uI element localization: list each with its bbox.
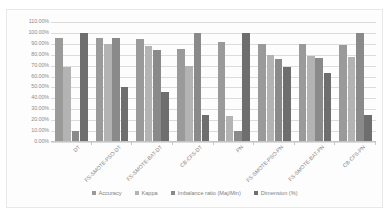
bar-group bbox=[173, 22, 214, 142]
bar-group bbox=[254, 22, 295, 142]
x-axis-baseline bbox=[51, 141, 376, 142]
y-axis-tick-label: 80.00% bbox=[9, 52, 49, 57]
bar-kappa bbox=[104, 44, 112, 142]
bar-kappa bbox=[226, 116, 234, 142]
legend-swatch-icon bbox=[254, 191, 259, 196]
bars-layer bbox=[51, 22, 376, 142]
x-axis: DTFS-SMOTE-PSO-DTFS-SMOTE-BAT-DTCB-CFS-D… bbox=[51, 144, 376, 188]
bar-imbalance-ratio-maj-min bbox=[315, 58, 323, 142]
bar-kappa bbox=[145, 46, 153, 142]
bar-accuracy bbox=[136, 39, 144, 142]
bar-dimension bbox=[324, 73, 332, 142]
bar-kappa bbox=[267, 55, 275, 142]
bar-group bbox=[214, 22, 255, 142]
y-axis-tick-label: 10.00% bbox=[9, 128, 49, 133]
y-axis-tick-label: 20.00% bbox=[9, 117, 49, 122]
legend-swatch-icon bbox=[135, 191, 140, 196]
bar-accuracy bbox=[96, 38, 104, 142]
bar-accuracy bbox=[258, 44, 266, 142]
bar-accuracy bbox=[177, 49, 185, 142]
legend-item-label: Dimension (%) bbox=[261, 190, 298, 196]
bar-dimension bbox=[283, 67, 291, 142]
legend-swatch-icon bbox=[92, 191, 97, 196]
bar-group bbox=[51, 22, 92, 142]
legend-item[interactable]: Dimension (%) bbox=[254, 190, 298, 196]
bar-accuracy bbox=[299, 44, 307, 142]
bar-dimension bbox=[242, 33, 250, 142]
legend-item[interactable]: Accuracy bbox=[92, 190, 122, 196]
x-axis-tick-label: CB-CFS-DT bbox=[179, 144, 203, 168]
bar-group bbox=[335, 22, 376, 142]
legend-swatch-icon bbox=[171, 191, 176, 196]
y-axis-tick-label: 100.00% bbox=[9, 30, 49, 35]
y-axis-tick-label: 0.00% bbox=[9, 139, 49, 144]
y-axis-tick-label: 110.00% bbox=[9, 19, 49, 24]
x-axis-tick-label: FS-SMOTE-PSO-DT bbox=[83, 144, 122, 183]
y-axis: 110.00%100.00%90.00%80.00%70.00%60.00%50… bbox=[9, 22, 49, 142]
bar-imbalance-ratio-maj-min bbox=[356, 33, 364, 142]
bar-group bbox=[295, 22, 336, 142]
bar-group bbox=[132, 22, 173, 142]
x-axis-tick-label: CB-CFS-PN bbox=[341, 144, 366, 169]
legend-item-label: Kappa bbox=[142, 190, 158, 196]
bar-dimension bbox=[364, 115, 372, 142]
y-axis-tick-label: 70.00% bbox=[9, 63, 49, 68]
bar-group bbox=[92, 22, 133, 142]
bar-kappa bbox=[63, 67, 71, 142]
bar-dimension bbox=[121, 87, 129, 142]
bar-imbalance-ratio-maj-min bbox=[153, 50, 161, 142]
bar-imbalance-ratio-maj-min bbox=[112, 38, 120, 142]
x-axis-tick-label: PN bbox=[235, 144, 244, 153]
bar-accuracy bbox=[55, 38, 63, 142]
y-axis-tick-label: 40.00% bbox=[9, 96, 49, 101]
bar-chart-figure: 110.00%100.00%90.00%80.00%70.00%60.00%50… bbox=[6, 9, 383, 208]
bar-imbalance-ratio-maj-min bbox=[194, 33, 202, 142]
x-axis-tick-label: DT bbox=[72, 144, 81, 153]
bar-kappa bbox=[307, 56, 315, 142]
y-axis-tick-label: 50.00% bbox=[9, 85, 49, 90]
legend-item[interactable]: Imbalance ratio (Maj/Min) bbox=[171, 190, 241, 196]
x-axis-tick-label: FS-SMOTE-PSO-PN bbox=[245, 144, 284, 183]
legend-item[interactable]: Kappa bbox=[135, 190, 158, 196]
bar-kappa bbox=[185, 66, 193, 142]
gridline bbox=[51, 142, 376, 143]
bar-imbalance-ratio-maj-min bbox=[275, 59, 283, 142]
y-axis-tick-label: 30.00% bbox=[9, 107, 49, 112]
bar-accuracy bbox=[218, 42, 226, 142]
bar-accuracy bbox=[339, 45, 347, 142]
bar-dimension bbox=[80, 33, 88, 142]
bar-kappa bbox=[348, 57, 356, 142]
bar-dimension bbox=[202, 115, 210, 142]
legend-item-label: Imbalance ratio (Maj/Min) bbox=[178, 190, 241, 196]
legend-item-label: Accuracy bbox=[99, 190, 122, 196]
plot-area bbox=[51, 22, 376, 142]
x-axis-tick-label: FS-SMOTE-BAT-DT bbox=[125, 144, 163, 182]
bar-dimension bbox=[161, 92, 169, 142]
y-axis-tick-label: 60.00% bbox=[9, 74, 49, 79]
plot-wrapper: 110.00%100.00%90.00%80.00%70.00%60.00%50… bbox=[7, 10, 382, 207]
chart-legend: AccuracyKappaImbalance ratio (Maj/Min)Di… bbox=[7, 190, 382, 196]
x-axis-tick-label: FS-SMOTE-BAT-PN bbox=[287, 144, 325, 182]
y-axis-tick-label: 90.00% bbox=[9, 41, 49, 46]
